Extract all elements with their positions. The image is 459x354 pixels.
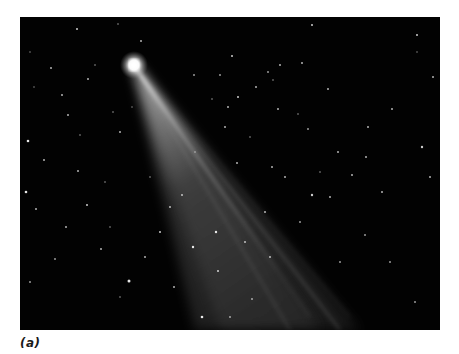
figure-caption: (a)	[20, 336, 41, 350]
comet-photograph	[20, 17, 440, 330]
comet-nucleus	[129, 60, 139, 71]
comet-image	[20, 17, 440, 330]
